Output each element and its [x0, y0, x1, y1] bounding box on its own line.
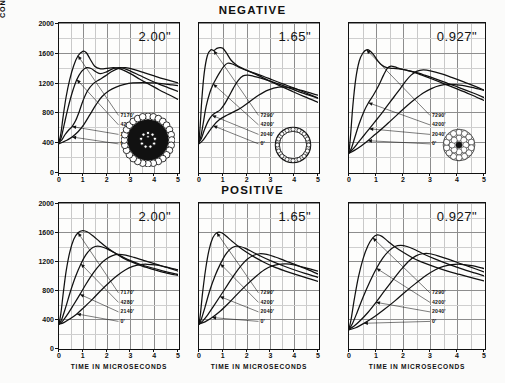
annotation-leader-line [220, 297, 259, 312]
x-tick-label: 5 [316, 352, 320, 359]
y-tick-label: 1600 [28, 229, 54, 236]
y-tick-label: 2000 [28, 200, 54, 207]
x-tick-label: 2 [401, 176, 405, 183]
plot-area: 7170'4280'2140'0'2.00" [58, 202, 180, 350]
y-tick-mark [55, 348, 58, 349]
chart-panel-negative-1-65: 7290'4200'2040'0'1.65"012345 [198, 22, 320, 174]
curve-layer [349, 203, 484, 348]
plot-area: 7290'4200'2040'0'1.65" [198, 202, 320, 350]
y-tick-mark [55, 290, 58, 291]
annotation-leader-line [220, 264, 258, 303]
annotation-leader-line [78, 233, 119, 293]
y-tick-label: 2000 [28, 20, 54, 27]
chart-panel-negative-2-00: 7170'4280'2140'0'2.00"012345040080012001… [58, 22, 180, 174]
x-tick-label: 2 [105, 352, 109, 359]
distance-annotation-4280ft: 4280' [121, 299, 135, 305]
x-tick-label: 4 [455, 176, 459, 183]
x-tick-label: 1 [81, 352, 85, 359]
x-tick-label: 3 [128, 176, 132, 183]
distance-annotation-0ft: 0' [261, 318, 266, 324]
x-tick-label: 0 [347, 176, 351, 183]
x-tick-label: 2 [245, 352, 249, 359]
y-tick-mark [55, 203, 58, 204]
plot-area: 7290'4200'2040'0'1.65" [198, 22, 320, 174]
conductor-cross-section-inset [121, 113, 175, 167]
x-tick-label: 3 [428, 352, 432, 359]
x-tick-label: 0 [197, 352, 201, 359]
x-tick-label: 1 [221, 176, 225, 183]
distance-annotation-7170ft: 7170' [121, 289, 135, 295]
chart-panel-negative-0-927: 7290'4200'2040'0'0.927"012345 [348, 22, 486, 174]
annotation-leader-line [373, 238, 430, 293]
distance-annotation-2040ft: 2040' [432, 308, 446, 314]
annotation-arrowhead [220, 296, 224, 299]
plot-area: 7290'4200'2040'0'0.927" [348, 202, 486, 350]
conductor-size-caption: 1.65" [279, 29, 311, 44]
annotation-arrowhead [377, 268, 381, 272]
x-axis-title: TIME IN MICROSECONDS [198, 363, 320, 370]
y-tick-label: 1200 [28, 79, 54, 86]
x-tick-label: 1 [374, 176, 378, 183]
x-tick-label: 3 [268, 176, 272, 183]
chart-panel-positive-2-00: 7170'4280'2140'0'2.00"012345040080012001… [58, 202, 180, 350]
x-tick-label: 3 [128, 352, 132, 359]
conductor-size-caption: 2.00" [139, 29, 171, 44]
distance-annotation-2140ft: 2140' [121, 308, 135, 314]
distance-annotation-7290ft: 7290' [432, 289, 446, 295]
y-tick-label: 800 [28, 109, 54, 116]
distance-annotation-0ft: 0' [432, 140, 437, 146]
x-axis-title: TIME IN MICROSECONDS [348, 363, 486, 370]
annotation-leader-line [77, 314, 119, 322]
distance-annotation-7290ft: 7290' [261, 112, 275, 118]
figure-root: NEGATIVE POSITIVE CONDUCTOR VOLTAGE IN K… [0, 0, 505, 383]
x-tick-label: 0 [347, 352, 351, 359]
y-tick-mark [55, 112, 58, 113]
annotation-arrowhead [214, 51, 218, 55]
x-tick-label: 4 [455, 352, 459, 359]
conductor-size-caption: 1.65" [279, 209, 311, 224]
y-tick-mark [55, 23, 58, 24]
series-curve [349, 264, 484, 330]
plot-area: 7290'4200'2040'0'0.927" [348, 22, 486, 174]
annotation-leader-line [214, 51, 259, 116]
annotation-leader-line [368, 141, 430, 144]
x-tick-label: 1 [81, 176, 85, 183]
x-tick-label: 4 [152, 176, 156, 183]
annotation-leader-line [213, 126, 258, 144]
y-tick-label: 800 [28, 287, 54, 294]
annotation-arrowhead [217, 233, 221, 237]
annotation-arrowhead [78, 233, 82, 237]
series-curve [199, 232, 318, 324]
x-tick-label: 5 [176, 352, 180, 359]
x-tick-label: 3 [268, 352, 272, 359]
curve-layer [59, 203, 178, 348]
annotation-leader-line [72, 137, 118, 144]
x-tick-label: 2 [401, 352, 405, 359]
conductor-size-caption: 0.927" [437, 209, 477, 224]
conductor-size-caption: 2.00" [139, 209, 171, 224]
row-header-negative: NEGATIVE [0, 4, 505, 16]
x-tick-label: 1 [374, 352, 378, 359]
conductor-cross-section-inset [271, 123, 315, 167]
curve-layer [199, 203, 318, 348]
conductor-size-caption: 0.927" [437, 29, 477, 44]
distance-annotation-4200ft: 4200' [261, 299, 275, 305]
x-tick-label: 4 [292, 352, 296, 359]
conductor-cross-section-inset [441, 127, 477, 163]
distance-annotation-7290ft: 7290' [261, 289, 275, 295]
distance-annotation-2040ft: 2040' [261, 308, 275, 314]
y-tick-mark [55, 319, 58, 320]
annotation-leader-line [80, 294, 119, 312]
x-tick-label: 4 [292, 176, 296, 183]
y-tick-label: 1200 [28, 258, 54, 265]
annotation-leader-line [376, 302, 430, 312]
distance-annotation-0ft: 0' [261, 140, 266, 146]
x-tick-label: 4 [152, 352, 156, 359]
x-tick-label: 5 [482, 176, 486, 183]
annotation-leader-line [212, 318, 258, 322]
x-tick-label: 1 [221, 352, 225, 359]
row-header-positive: POSITIVE [0, 184, 505, 196]
x-tick-label: 5 [176, 176, 180, 183]
x-tick-label: 3 [428, 176, 432, 183]
annotation-leader-line [364, 321, 430, 323]
